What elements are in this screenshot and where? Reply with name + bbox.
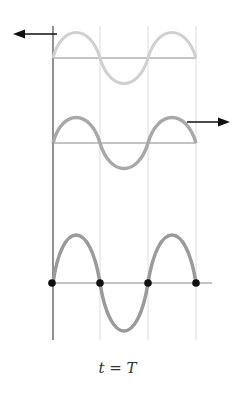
time-caption: t = T (0, 359, 235, 377)
diagram-canvas (0, 0, 235, 400)
time-variable: t (98, 359, 104, 377)
arrow-right-icon (187, 118, 230, 127)
standing-wave-diagram: t = T (0, 0, 235, 400)
arrow-left-icon (13, 30, 57, 39)
equals-sign: = (109, 359, 122, 377)
time-value: T (127, 359, 137, 377)
